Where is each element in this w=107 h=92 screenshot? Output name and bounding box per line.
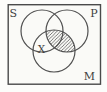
venn-diagram-canvas: S P M X [0, 0, 107, 92]
label-s: S [10, 7, 18, 20]
venn-figure: S P M X [0, 0, 107, 92]
label-m: M [84, 70, 95, 83]
x-marker: X [38, 43, 46, 55]
label-p: P [90, 7, 98, 20]
